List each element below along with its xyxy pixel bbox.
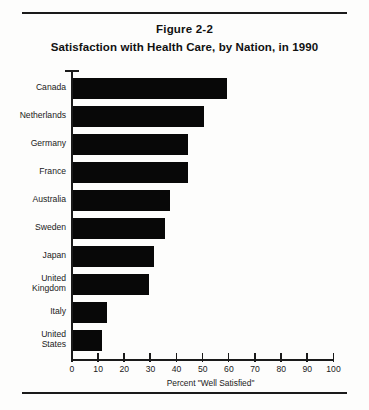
figure-number: Figure 2-2 [0, 22, 369, 37]
bar-track [73, 302, 359, 323]
x-axis-tick [176, 353, 178, 362]
bar [73, 134, 188, 155]
bar [73, 106, 204, 127]
bar [73, 302, 107, 323]
bar-track [73, 106, 359, 127]
x-axis-tick [71, 353, 73, 362]
bar-row: Germany [0, 132, 369, 160]
bar [73, 274, 149, 295]
plot-area: CanadaNetherlandsGermanyFranceAustraliaS… [0, 68, 369, 368]
bar-track [73, 218, 359, 239]
bar [73, 190, 170, 211]
bar-category-label: Netherlands [0, 104, 66, 120]
bar-row: Netherlands [0, 104, 369, 132]
bar-row: Italy [0, 300, 369, 328]
bar-track [73, 190, 359, 211]
x-axis-tick [333, 353, 335, 362]
bar-category-label: France [0, 160, 66, 176]
x-axis-tick [228, 353, 230, 362]
figure-title: Satisfaction with Health Care, by Nation… [0, 39, 369, 55]
x-axis-tick [202, 353, 204, 362]
bar-track [73, 330, 359, 351]
bar-category-label: Japan [0, 244, 66, 260]
bar-row: Sweden [0, 216, 369, 244]
bar-row: France [0, 160, 369, 188]
bar-row: Australia [0, 188, 369, 216]
bar-category-label: Italy [0, 300, 66, 316]
bar-track [73, 78, 359, 99]
bar-category-label: Australia [0, 188, 66, 204]
figure-container: Figure 2-2 Satisfaction with Health Care… [0, 0, 369, 410]
bar-category-label: Germany [0, 132, 66, 148]
bar-track [73, 246, 359, 267]
x-axis-tick [149, 353, 151, 362]
bar-category-label: Canada [0, 76, 66, 92]
bar-category-label: United States [0, 328, 66, 349]
bar-track [73, 274, 359, 295]
x-axis-tick [306, 353, 308, 362]
x-axis-tick [123, 353, 125, 362]
bottom-divider-rule [22, 392, 347, 394]
bar-track [73, 134, 359, 155]
figure-heading: Figure 2-2 Satisfaction with Health Care… [0, 22, 369, 55]
bar-category-label: Sweden [0, 216, 66, 232]
bar-rows: CanadaNetherlandsGermanyFranceAustraliaS… [0, 76, 369, 356]
bar [73, 162, 188, 183]
bar-row: United Kingdom [0, 272, 369, 300]
x-axis-tick-label: 100 [319, 364, 349, 374]
bar-category-label: United Kingdom [0, 272, 66, 293]
x-axis-tick [97, 353, 99, 362]
bar-row: Canada [0, 76, 369, 104]
x-axis-tick [280, 353, 282, 362]
bar [73, 78, 227, 99]
bar [73, 246, 154, 267]
bar-track [73, 162, 359, 183]
bar [73, 218, 165, 239]
bar-row: Japan [0, 244, 369, 272]
bar [73, 330, 102, 351]
bar-row: United States [0, 328, 369, 356]
top-divider-rule [22, 12, 347, 14]
x-axis-tick [254, 353, 256, 362]
x-axis-title: Percent "Well Satisfied" [0, 378, 369, 388]
